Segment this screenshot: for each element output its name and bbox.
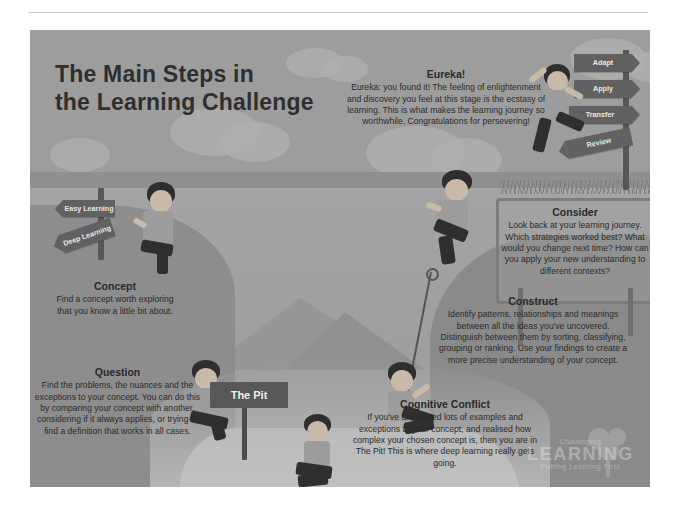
figure-head bbox=[307, 421, 328, 442]
figure-head bbox=[150, 190, 172, 212]
step-heading-cognitive-conflict: Cognitive Conflict bbox=[350, 398, 540, 411]
infographic-poster: The Main Steps in the Learning Challenge… bbox=[30, 30, 650, 487]
figure-in-pit bbox=[294, 414, 354, 487]
figure-legs bbox=[555, 111, 585, 132]
brand-logo-line-3: Putting Learning First bbox=[508, 463, 650, 470]
step-body-concept: Find a concept worth exploring that you … bbox=[50, 294, 180, 317]
step-body-eureka: Eureka: you found it! The feeling of enl… bbox=[346, 82, 546, 128]
step-heading-construct: Construct bbox=[438, 295, 628, 308]
figure-concept bbox=[135, 182, 195, 277]
step-block-question: Question Find the problems, the nuances … bbox=[30, 366, 205, 437]
signpost-easy-learning[interactable]: Easy Learning bbox=[63, 200, 115, 217]
consider-board-post bbox=[628, 288, 633, 336]
page-divider bbox=[28, 12, 648, 13]
page-title-line-2: the Learning Challenge bbox=[55, 88, 385, 116]
figure-cresting-cliff bbox=[430, 170, 500, 266]
figure-head bbox=[445, 179, 468, 201]
step-heading-consider: Consider bbox=[500, 206, 650, 219]
pit-signpost-post bbox=[242, 402, 247, 460]
step-heading-question: Question bbox=[30, 366, 205, 379]
step-block-concept: Concept Find a concept worth exploring t… bbox=[50, 280, 180, 317]
signpost-adapt-label: Adapt bbox=[593, 59, 613, 67]
step-heading-concept: Concept bbox=[50, 280, 180, 293]
cloud-icon bbox=[50, 138, 110, 172]
signpost-apply-label: Apply bbox=[593, 85, 613, 93]
step-body-construct: Identify patterns, relationships and mea… bbox=[438, 309, 628, 366]
step-heading-eureka: Eureka! bbox=[346, 68, 546, 81]
figure-legs bbox=[297, 472, 328, 487]
step-block-consider: Consider Look back at your learning jour… bbox=[500, 206, 650, 277]
signpost-easy-learning-label: Easy Learning bbox=[64, 205, 113, 213]
brand-logo-line-2: LEARNING bbox=[508, 445, 650, 463]
page-title-line-1: The Main Steps in bbox=[55, 60, 385, 88]
step-block-construct: Construct Identify patterns, relationshi… bbox=[438, 295, 628, 366]
figure-legs bbox=[157, 244, 168, 274]
page-title: The Main Steps in the Learning Challenge bbox=[55, 60, 385, 116]
step-block-eureka: Eureka! Eureka: you found it! The feelin… bbox=[346, 68, 546, 128]
figure-legs bbox=[438, 235, 456, 265]
figure-arm bbox=[411, 383, 431, 399]
cloud-icon bbox=[220, 122, 290, 162]
step-body-question: Find the problems, the nuances and the e… bbox=[30, 380, 205, 437]
pit-sign-label: The Pit bbox=[231, 389, 268, 401]
pit-sign[interactable]: The Pit bbox=[210, 382, 288, 408]
step-body-consider: Look back at your learning journey. Whic… bbox=[500, 220, 650, 277]
brand-logo: Challenging LEARNING Putting Learning Fi… bbox=[508, 438, 650, 470]
figure-head bbox=[391, 370, 413, 392]
signpost-transfer-label: Transfer bbox=[586, 111, 614, 119]
